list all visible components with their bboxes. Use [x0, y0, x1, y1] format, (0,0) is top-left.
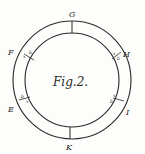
- label-i: I: [125, 108, 130, 117]
- mark-e-b: b: [21, 94, 24, 99]
- label-f: F: [7, 48, 14, 57]
- figure-title: Fig.2.: [52, 75, 88, 89]
- figure-canvas: G K F H E I b x x b b x x b Fig.2.: [0, 0, 145, 154]
- mark-f-b: b: [29, 50, 32, 55]
- mark-h-b: b: [117, 56, 120, 61]
- label-g: G: [69, 10, 76, 19]
- mark-i-b: b: [110, 99, 113, 104]
- label-h: H: [122, 50, 131, 59]
- ring-diagram: G K F H E I b x x b b x x b Fig.2.: [0, 0, 145, 154]
- label-k: K: [65, 143, 73, 152]
- mark-e-x: x: [26, 99, 29, 104]
- label-e: E: [7, 105, 14, 114]
- mark-h-x: x: [113, 51, 116, 56]
